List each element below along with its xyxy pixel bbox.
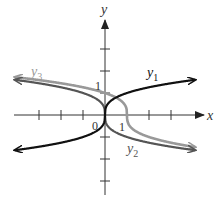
origin-label: 0 <box>92 119 98 133</box>
legend-y1: y1 <box>145 65 158 83</box>
svg-text:y2: y2 <box>125 141 138 159</box>
y-one-label: 1 <box>95 79 101 93</box>
function-graph: y x 0 1 1 y1 y2 y3 <box>0 0 216 197</box>
x-axis-label: x <box>206 108 214 123</box>
svg-text:y1: y1 <box>145 65 158 83</box>
axes <box>14 20 204 195</box>
legend-y2: y2 <box>125 141 138 159</box>
x-one-label: 1 <box>119 120 125 134</box>
y-axis-label: y <box>99 2 108 17</box>
